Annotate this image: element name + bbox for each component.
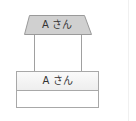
diagram-canvas: A さん A さん xyxy=(0,0,136,121)
class-box-header: A さん xyxy=(17,72,98,91)
class-box-body xyxy=(17,91,98,107)
actor-label: A さん xyxy=(29,20,85,30)
class-box[interactable]: A さん xyxy=(16,71,99,108)
class-box-title: A さん xyxy=(17,76,98,86)
